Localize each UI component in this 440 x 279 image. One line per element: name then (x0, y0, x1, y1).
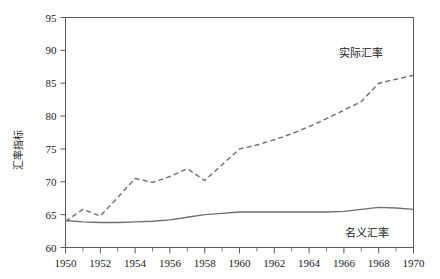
x-tick-label-1968: 1968 (368, 257, 391, 269)
x-tick-label-1958: 1958 (194, 257, 217, 269)
chart-canvas: 6065707580859095 19501952195419561958196… (0, 0, 440, 279)
y-tick-label-80: 80 (46, 110, 58, 122)
x-tick-label-1960: 1960 (229, 257, 252, 269)
x-tick-label-1954: 1954 (124, 257, 147, 269)
x-tick-label-1956: 1956 (159, 257, 182, 269)
exchange-rate-index-chart: 6065707580859095 19501952195419561958196… (0, 0, 440, 279)
x-tick-label-1970: 1970 (403, 257, 426, 269)
y-tick-label-70: 70 (46, 176, 58, 188)
x-tick-label-1964: 1964 (298, 257, 321, 269)
y-tick-label-90: 90 (46, 44, 58, 56)
x-tick-label-1950: 1950 (55, 257, 78, 269)
x-tick-label-1962: 1962 (263, 257, 285, 269)
series-label-2: 名义汇率 (345, 226, 389, 239)
x-tick-label-1952: 1952 (89, 257, 111, 269)
y-axis-title: 汇率指标 (12, 130, 24, 170)
y-tick-label-75: 75 (46, 143, 58, 155)
y-tick-label-65: 65 (46, 209, 58, 221)
y-tick-label-95: 95 (46, 12, 58, 24)
x-tick-label-1966: 1966 (333, 257, 356, 269)
y-tick-label-60: 60 (46, 242, 58, 254)
series-label-1: 实际汇率 (339, 46, 383, 59)
y-tick-label-85: 85 (46, 77, 58, 89)
